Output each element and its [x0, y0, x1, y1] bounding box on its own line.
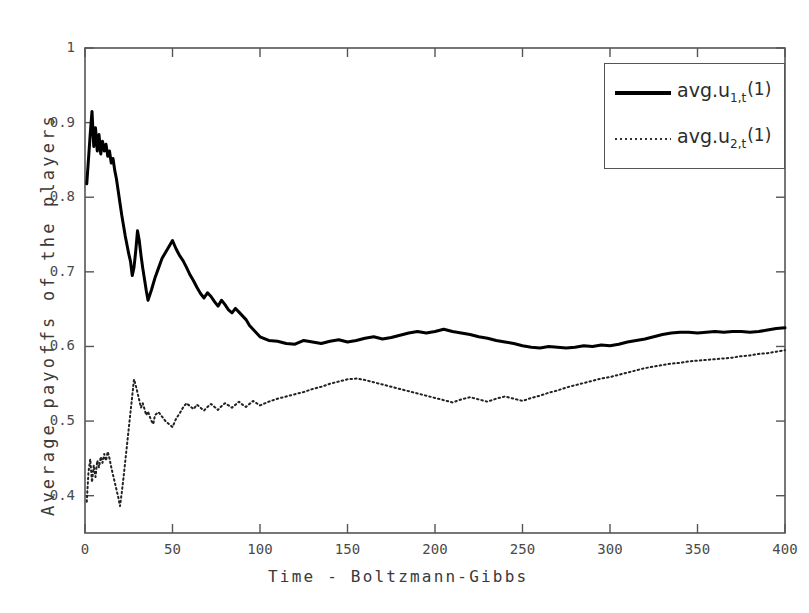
- legend-entry-series-0: avg.u1,t(1): [605, 72, 784, 114]
- x-axis-label: Time - Boltzmann-Gibbs: [268, 567, 528, 586]
- legend-label-series-0: avg.u1,t(1): [677, 81, 771, 104]
- x-tick-label: 200: [405, 541, 465, 557]
- x-tick-label: 300: [580, 541, 640, 557]
- legend-swatch-dotted-line: [615, 133, 671, 145]
- x-tick-label: 0: [55, 541, 115, 557]
- x-tick-label: 350: [668, 541, 728, 557]
- legend-label-series-1: avg.u2,t(1): [677, 127, 771, 150]
- legend: avg.u1,t(1) avg.u2,t(1): [604, 63, 785, 169]
- series-line-1: [87, 350, 785, 506]
- legend-entry-series-1: avg.u2,t(1): [605, 118, 784, 160]
- y-tick-label: 0.4: [23, 487, 75, 503]
- y-tick-label: 0.5: [23, 412, 75, 428]
- x-tick-label: 50: [143, 541, 203, 557]
- legend-swatch-solid-line: [615, 87, 671, 99]
- y-tick-label: 0.7: [23, 263, 75, 279]
- x-tick-label: 400: [755, 541, 809, 557]
- y-tick-label: 0.8: [23, 188, 75, 204]
- chart-figure: Average payoffs of the players Time - Bo…: [0, 0, 809, 613]
- y-tick-label: 1: [23, 39, 75, 55]
- y-axis-label: Average payoffs of the players: [38, 113, 58, 516]
- x-tick-label: 100: [230, 541, 290, 557]
- y-tick-label: 0.6: [23, 337, 75, 353]
- y-tick-label: 0.9: [23, 114, 75, 130]
- x-tick-label: 250: [493, 541, 553, 557]
- x-tick-label: 150: [318, 541, 378, 557]
